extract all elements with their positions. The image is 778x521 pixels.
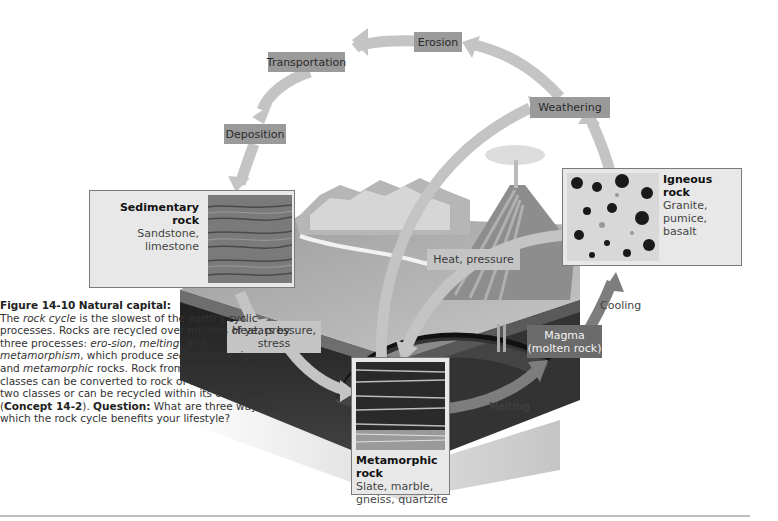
caption-term: sedimentary	[167, 349, 233, 361]
sedimentary-rock-examples: Sandstone, limestone	[94, 227, 199, 253]
bottom-divider	[0, 515, 750, 517]
magma-line1: Magma	[544, 329, 585, 342]
erosion-text: Erosion	[418, 36, 458, 49]
caption-term: ero-sion	[90, 337, 132, 349]
metamorphic-rock-image	[356, 362, 445, 450]
melting-label: Melting	[489, 400, 530, 413]
magma-line2: (molten rock)	[527, 342, 601, 355]
caption-text: The	[0, 312, 23, 324]
deposition-text: Deposition	[226, 128, 285, 141]
weathering-label: Weathering	[530, 97, 610, 118]
question-label: Question:	[93, 400, 150, 412]
deposition-label: Deposition	[224, 124, 286, 144]
metamorphic-rock-title: Metamorphic rock	[356, 454, 449, 480]
caption-text: ).	[82, 400, 93, 412]
caption-text: , and	[179, 337, 205, 349]
igneous-rock-image	[567, 173, 659, 261]
figure-number: Figure 14-10	[0, 299, 75, 311]
igneous-rock-title: Igneous rock	[663, 173, 741, 199]
sedimentary-rock-image	[208, 195, 292, 283]
metamorphic-rock-examples-line1: Slate, marble,	[356, 480, 449, 493]
caption-term: metamorphism	[0, 349, 80, 361]
cooling-label: Cooling	[600, 299, 641, 312]
magma-label: Magma (molten rock)	[527, 325, 602, 358]
metamorphic-rock-box: Metamorphic rock Slate, marble, gneiss, …	[351, 357, 450, 495]
igneous-rock-examples-line2: basalt	[663, 225, 741, 238]
sedimentary-rock-box: Sedimentary rock Sandstone, limestone	[89, 190, 295, 288]
igneous-rock-box: Igneous rock Granite, pumice, basalt	[562, 168, 742, 266]
heat-pressure-label: Heat, pressure	[427, 249, 520, 270]
sedimentary-rock-title: Sedimentary rock	[94, 201, 199, 227]
caption-text: , which produce	[80, 349, 167, 361]
erosion-label: Erosion	[414, 32, 462, 52]
caption-term: rock cycle	[23, 312, 76, 324]
caption-term: melting	[139, 337, 179, 349]
transportation-text: Transportation	[267, 56, 346, 69]
transportation-label: Transportation	[268, 52, 345, 72]
weathering-text: Weathering	[538, 101, 601, 114]
caption-term: metamorphic	[23, 362, 93, 374]
figure-caption: Figure 14-10 Natural capital: The rock c…	[0, 299, 290, 425]
figure-title: Natural capital:	[79, 299, 171, 311]
caption-term: igneous	[239, 349, 280, 361]
metamorphic-rock-examples-line2: gneiss, quartzite	[356, 493, 449, 506]
concept-reference: Concept 14-2	[4, 400, 82, 412]
heat-pressure-text: Heat, pressure	[433, 253, 514, 266]
igneous-rock-examples-line1: Granite, pumice,	[663, 199, 741, 225]
